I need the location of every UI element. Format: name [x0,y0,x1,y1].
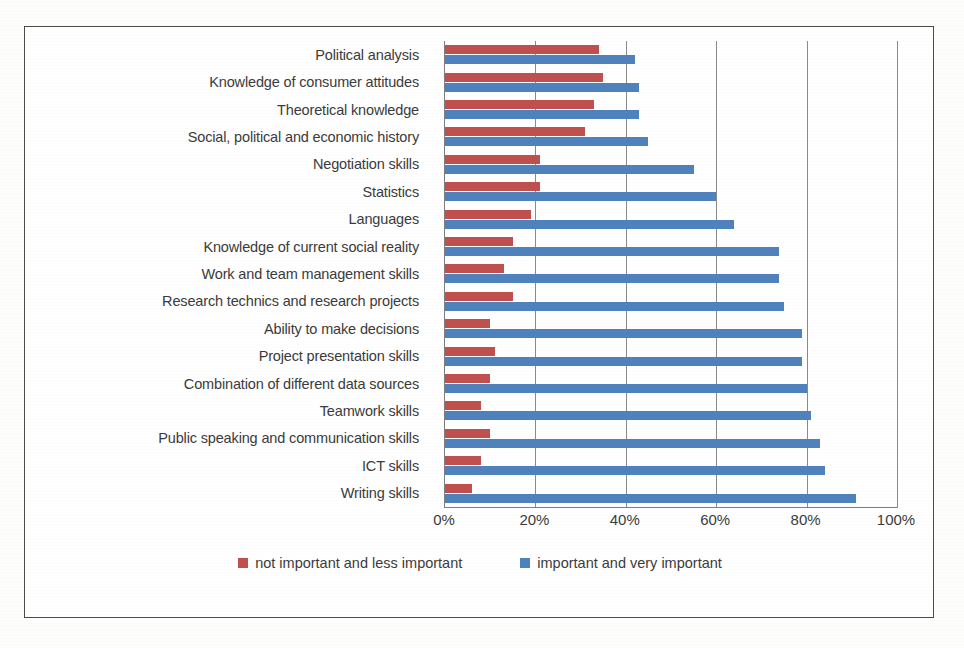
bar-row [445,205,897,232]
bar-row [445,123,897,150]
bar-important [445,384,807,393]
red-swatch-icon [238,558,248,568]
value-tick-label: 100% [877,511,915,528]
bar-important [445,83,639,92]
value-axis-labels: 0%20%40%60%80%100% [444,511,896,541]
bar-not-important [445,155,540,164]
bar-not-important [445,401,481,410]
bar-not-important [445,210,531,219]
bar-chart: Political analysisKnowledge of consumer … [25,27,935,619]
category-label: Ability to make decisions [35,315,425,342]
bar-not-important [445,264,504,273]
category-label: Work and team management skills [35,260,425,287]
bar-important [445,137,648,146]
value-tick-label: 80% [791,511,821,528]
bar-row [445,370,897,397]
category-label: Political analysis [35,41,425,68]
bar-row [445,397,897,424]
bar-row [445,260,897,287]
bar-not-important [445,319,490,328]
category-label: Writing skills [35,480,425,507]
category-label: Teamwork skills [35,397,425,424]
bar-important [445,220,734,229]
legend-label: not important and less important [255,555,462,571]
bar-row [445,178,897,205]
bar-not-important [445,347,495,356]
bar-row [445,342,897,369]
bar-not-important [445,237,513,246]
bar-row [445,151,897,178]
bar-row [445,452,897,479]
bar-not-important [445,456,481,465]
value-tick-label: 20% [519,511,549,528]
bar-important [445,110,639,119]
bar-important [445,494,856,503]
bar-row [445,315,897,342]
bar-important [445,411,811,420]
bar-not-important [445,374,490,383]
bar-row [445,288,897,315]
bar-important [445,302,784,311]
bar-important [445,466,825,475]
category-label: Research technics and research projects [35,288,425,315]
value-tick-label: 0% [433,511,455,528]
legend-item: not important and less important [238,555,462,571]
bar-rows [445,41,897,507]
bar-not-important [445,429,490,438]
category-label: Project presentation skills [35,342,425,369]
bar-row [445,68,897,95]
category-axis-labels: Political analysisKnowledge of consumer … [35,41,425,507]
category-label: Knowledge of current social reality [35,233,425,260]
category-label: Languages [35,205,425,232]
chart-frame: Political analysisKnowledge of consumer … [24,26,934,618]
bar-important [445,357,802,366]
category-label: Negotiation skills [35,151,425,178]
category-label: Theoretical knowledge [35,96,425,123]
category-label: Statistics [35,178,425,205]
value-tick-label: 60% [700,511,730,528]
bar-important [445,439,820,448]
value-tick-label: 40% [610,511,640,528]
scanned-page: Political analysisKnowledge of consumer … [0,0,964,648]
category-label: Combination of different data sources [35,370,425,397]
bar-important [445,165,694,174]
chart-legend: not important and less importantimportan… [25,555,935,571]
bar-important [445,247,779,256]
category-label: Knowledge of consumer attitudes [35,68,425,95]
legend-item: important and very important [520,555,722,571]
plot-area [444,41,898,508]
bar-important [445,274,779,283]
bar-important [445,55,635,64]
bar-row [445,425,897,452]
bar-row [445,480,897,507]
category-label: Public speaking and communication skills [35,425,425,452]
bar-important [445,192,716,201]
bar-not-important [445,292,513,301]
legend-label: important and very important [537,555,722,571]
bar-not-important [445,182,540,191]
bar-not-important [445,484,472,493]
bar-not-important [445,100,594,109]
bar-row [445,41,897,68]
category-label: ICT skills [35,452,425,479]
bar-not-important [445,45,599,54]
bar-not-important [445,73,603,82]
bar-important [445,329,802,338]
bar-not-important [445,127,585,136]
bar-row [445,96,897,123]
category-label: Social, political and economic history [35,123,425,150]
gridline [897,41,898,507]
blue-swatch-icon [520,558,530,568]
bar-row [445,233,897,260]
